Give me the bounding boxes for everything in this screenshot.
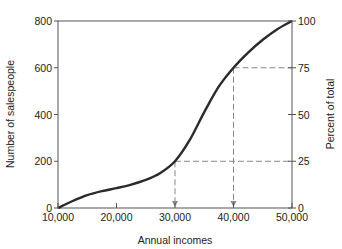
y-axis-label: Number of salespeople (4, 60, 16, 168)
x-tick-label: 20,000 (100, 211, 132, 223)
y-tick-label: 0 (46, 202, 52, 214)
x-ticks: 10,00020,00030,00040,00050,000 (42, 203, 308, 223)
y2-axis-label: Percent of total (324, 79, 336, 150)
y-tick-label: 200 (34, 155, 52, 167)
y2-tick-label: 0 (298, 202, 304, 214)
y2-tick-label: 100 (298, 15, 316, 27)
y-tick-label: 800 (34, 15, 52, 27)
y2-tick-label: 50 (298, 109, 310, 121)
x-tick-label: 30,000 (159, 211, 191, 223)
y-tick-label: 600 (34, 62, 52, 74)
y-tick-label: 400 (34, 109, 52, 121)
ogive-chart: 10,00020,00030,00040,00050,000 020040060… (0, 0, 342, 249)
y-ticks: 0200400600800 (34, 15, 58, 214)
y2-tick-label: 75 (298, 62, 310, 74)
x-tick-label: 40,000 (217, 211, 249, 223)
y2-tick-label: 25 (298, 155, 310, 167)
x-axis-label: Annual incomes (138, 234, 213, 246)
